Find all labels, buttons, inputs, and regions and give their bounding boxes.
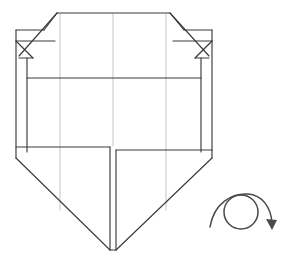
origami-figure [0, 0, 284, 266]
origami-diagram-root: Origami fold step diagram Folded paper s… [0, 0, 284, 266]
turn-over-arc-icon [210, 194, 272, 227]
turn-over-symbol [210, 194, 277, 230]
turn-over-circle-icon [224, 195, 258, 229]
paper-body-fill [16, 13, 212, 250]
turn-over-arrowhead-icon [266, 219, 277, 230]
paper-body-group [16, 13, 212, 250]
